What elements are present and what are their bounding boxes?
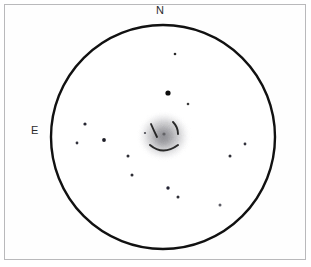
- star-14: [144, 132, 146, 134]
- star-8: [229, 155, 232, 158]
- star-5: [102, 138, 106, 142]
- nebula-core-point: [162, 132, 165, 135]
- star-2: [165, 90, 170, 95]
- star-1: [174, 53, 177, 56]
- star-6: [76, 142, 79, 145]
- cardinal-label-east: E: [31, 125, 39, 136]
- field-of-view-drawing: [0, 0, 311, 267]
- star-12: [177, 196, 180, 199]
- star-13: [219, 204, 222, 207]
- star-11: [166, 186, 169, 189]
- star-9: [127, 155, 130, 158]
- central-nebula: [136, 110, 192, 162]
- star-10: [131, 174, 134, 177]
- cardinal-label-north: N: [156, 5, 164, 16]
- star-4: [83, 122, 86, 125]
- star-3: [187, 103, 190, 106]
- eyepiece-sketch-page: N E: [0, 0, 311, 267]
- star-7: [244, 143, 247, 146]
